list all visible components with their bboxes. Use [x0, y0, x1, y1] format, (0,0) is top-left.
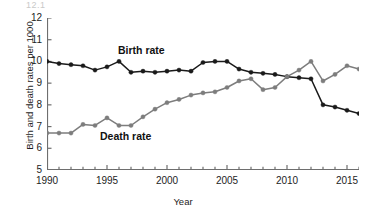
series-label-death-rate: Death rate: [100, 130, 151, 142]
y-tick-label: 11: [20, 35, 42, 45]
y-tick-label: 10: [20, 56, 42, 66]
x-tick-label: 2010: [267, 176, 307, 186]
plot-area: [47, 18, 359, 170]
y-tick-label: 8: [20, 100, 42, 110]
y-tick-label: 5: [20, 165, 42, 175]
x-tick-label: 1990: [27, 176, 67, 186]
x-tick-label: 2000: [147, 176, 187, 186]
chart-canvas: [47, 18, 359, 170]
x-tick-label: 1995: [87, 176, 127, 186]
y-tick-label: 6: [20, 143, 42, 153]
x-tick-label: 2005: [207, 176, 247, 186]
y-tick-label: 12: [20, 13, 42, 23]
y-tick-label: 7: [20, 122, 42, 132]
x-tick-label: 2015: [327, 176, 366, 186]
chart-figure: 12.1 Birth and death rates per 1000 Year…: [0, 0, 366, 211]
series-label-birth-rate: Birth rate: [118, 44, 165, 56]
series-layer: [47, 59, 359, 135]
y-tick-label: 9: [20, 78, 42, 88]
x-axis-title: Year: [0, 196, 366, 207]
series-birth-rate: [47, 59, 359, 115]
